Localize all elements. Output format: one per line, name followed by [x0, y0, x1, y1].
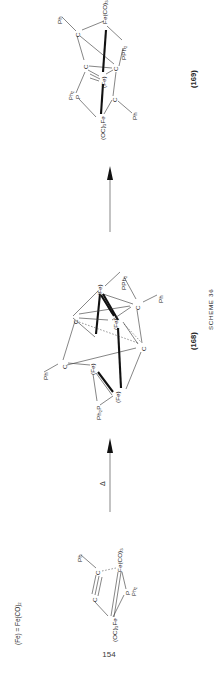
- atom-label-p-167: P: [124, 591, 131, 595]
- atom-label-c-upper-167: C: [94, 570, 101, 575]
- legend-fe-definition: (Fe) = Fe(CO)₂: [14, 602, 21, 645]
- atom-label-ph-167: Ph: [76, 554, 83, 562]
- atom-label-oc3fe-167: (OC)₃Fe: [111, 618, 118, 642]
- structure-167-bonds: [0, 0, 218, 680]
- atom-label-ph2-167: Ph₂: [131, 587, 137, 596]
- atom-label-feco3-167: Fe(CO)₃: [116, 548, 123, 572]
- scheme-page: Ph C Fe(CO)₃ PPh₂ C C (Fe) P Ph₂ C Ph (O…: [0, 0, 218, 680]
- page-number: 154: [0, 650, 218, 659]
- atom-label-c-lower-167: C: [91, 597, 98, 602]
